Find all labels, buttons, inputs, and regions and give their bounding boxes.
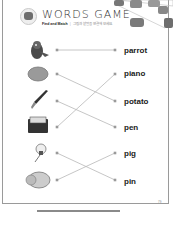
picture-dot-0[interactable] — [56, 49, 59, 52]
piano-icon — [27, 116, 49, 134]
word-dot-4[interactable] — [114, 152, 117, 155]
word-dot-0[interactable] — [114, 49, 117, 52]
picture-dot-1[interactable] — [56, 73, 59, 76]
word-potato: potato — [124, 97, 148, 106]
match-line-pen — [57, 101, 115, 127]
picture-dot-4[interactable] — [56, 152, 59, 155]
pen-icon — [30, 90, 50, 110]
word-dot-1[interactable] — [114, 73, 117, 76]
potato-icon — [27, 66, 49, 82]
word-parrot: parrot — [124, 46, 147, 55]
word-pen: pen — [124, 123, 138, 132]
word-dot-5[interactable] — [114, 179, 117, 182]
picture-dot-2[interactable] — [56, 100, 59, 103]
match-line-piano — [57, 74, 115, 127]
word-pin: pin — [124, 177, 136, 186]
word-piano: piano — [124, 69, 145, 78]
pin-icon — [32, 143, 48, 163]
parrot-icon — [27, 41, 51, 61]
picture-dot-5[interactable] — [56, 179, 59, 182]
match-line-potato — [57, 74, 115, 101]
picture-dot-3[interactable] — [56, 126, 59, 129]
word-dot-2[interactable] — [114, 100, 117, 103]
word-pig: pig — [124, 149, 136, 158]
word-dot-3[interactable] — [114, 126, 117, 129]
page-number: 79 — [158, 200, 161, 204]
pig-icon — [25, 170, 51, 190]
